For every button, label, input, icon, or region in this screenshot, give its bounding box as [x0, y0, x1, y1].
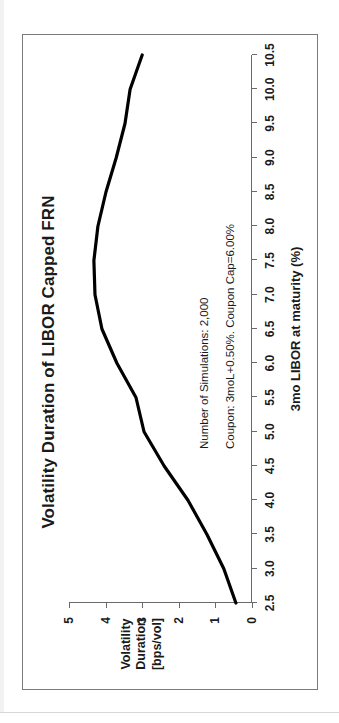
y-axis-tick-label: 0 [245, 617, 259, 624]
y-axis-tick [105, 603, 106, 608]
y-axis-tick-label: 2 [171, 617, 185, 624]
y-axis-tick-label: 1 [208, 617, 222, 624]
x-axis-tick-label: 10.5 [263, 43, 277, 66]
annotation-simulations: Number of Simulations: 2,000 [191, 223, 217, 448]
y-axis-tick-label: 4 [98, 617, 112, 624]
y-axis-title-line-3: [bps/vol] [149, 607, 164, 681]
page-root: Volatility Duration of LIBOR Capped FRN … [0, 0, 339, 723]
y-axis-title-line-1: Volatility [119, 607, 134, 681]
x-axis-tick [252, 465, 257, 466]
chart-title: Volatility Duration of LIBOR Capped FRN [39, 35, 59, 689]
y-axis-tick [178, 603, 179, 608]
x-axis-tick [252, 191, 257, 192]
x-axis-tick [252, 225, 257, 226]
x-axis-tick [252, 499, 257, 500]
x-axis-tick-label: 8.0 [263, 217, 277, 234]
x-axis-tick [252, 328, 257, 329]
x-axis-tick [252, 430, 257, 431]
x-axis-tick-label: 6.0 [263, 354, 277, 371]
x-axis-tick-label: 4.5 [263, 457, 277, 474]
x-axis-tick-label: 4.0 [263, 491, 277, 508]
x-axis-tick-label: 5.0 [263, 423, 277, 440]
x-axis-tick [252, 396, 257, 397]
scan-edge-bottom [0, 712, 339, 723]
x-axis-tick [252, 122, 257, 123]
scan-edge-left [0, 0, 4, 723]
x-axis-tick [252, 156, 257, 157]
x-axis-tick-label: 3.0 [263, 560, 277, 577]
y-axis-tick [69, 603, 70, 608]
x-axis-tick-label: 9.0 [263, 149, 277, 166]
x-axis-tick [252, 362, 257, 363]
x-axis-tick [252, 293, 257, 294]
y-axis-tick-label: 3 [135, 617, 149, 624]
x-axis-tick-label: 5.5 [263, 389, 277, 406]
y-axis-tick-label: 5 [62, 617, 76, 624]
x-axis-tick [252, 88, 257, 89]
x-axis-tick-label: 7.5 [263, 252, 277, 269]
y-axis-tick [252, 603, 253, 608]
x-axis-tick-label: 7.0 [263, 286, 277, 303]
x-axis-tick-label: 3.5 [263, 526, 277, 543]
x-axis-tick [252, 259, 257, 260]
x-axis-tick-label: 10.0 [263, 77, 277, 100]
chart-frame: Volatility Duration of LIBOR Capped FRN … [22, 34, 318, 690]
x-axis-tick-label: 8.5 [263, 183, 277, 200]
x-axis-tick-label: 6.5 [263, 320, 277, 337]
x-axis-tick [252, 54, 257, 55]
x-axis-tick-label: 2.5 [263, 594, 277, 611]
annotation-coupon: Coupon: 3moL+0.50%. Coupon Cap=6.00% [217, 223, 243, 448]
x-axis-tick-label: 9.5 [263, 115, 277, 132]
x-axis-tick [252, 533, 257, 534]
chart-rotor: Volatility Duration of LIBOR Capped FRN … [22, 34, 318, 690]
x-axis-tick [252, 567, 257, 568]
y-axis-tick [142, 603, 143, 608]
chart-annotations: Number of Simulations: 2,000 Coupon: 3mo… [191, 223, 244, 448]
y-axis-tick [215, 603, 216, 608]
x-axis-title: 3mo LIBOR at maturity (%) [288, 55, 303, 603]
